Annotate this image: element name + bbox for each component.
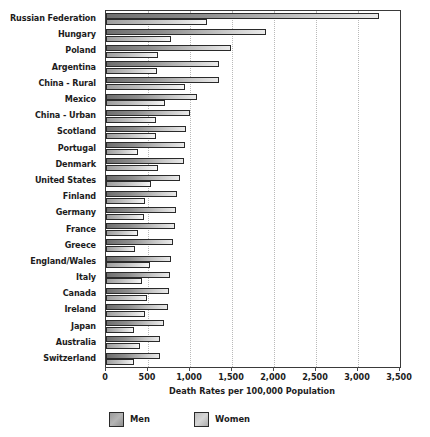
- x-tick-label: 2,000: [260, 372, 286, 382]
- x-tick-label: 3,500: [386, 372, 412, 382]
- bar-women: [106, 52, 158, 58]
- bar-row: [106, 92, 400, 108]
- legend-label-men: Men: [130, 414, 150, 424]
- x-tick: [273, 367, 274, 371]
- bar-row: [106, 335, 400, 351]
- bar-row: [106, 270, 400, 286]
- bar-row: [106, 302, 400, 318]
- category-label: Italy: [0, 269, 100, 285]
- bar-women: [106, 230, 138, 236]
- bar-women: [106, 246, 135, 252]
- legend-item-women[interactable]: Women: [194, 412, 250, 427]
- bar-men: [106, 272, 170, 278]
- bar-row: [106, 319, 400, 335]
- category-label: Mexico: [0, 91, 100, 107]
- category-label: Ireland: [0, 301, 100, 317]
- bar-women: [106, 133, 156, 139]
- chart-legend: MenWomen: [105, 408, 399, 430]
- x-axis-title: Death Rates per 100,000 Population: [105, 386, 399, 396]
- x-tick: [231, 367, 232, 371]
- category-label: Canada: [0, 285, 100, 301]
- bar-women: [106, 359, 134, 365]
- legend-swatch-men: [109, 412, 124, 427]
- bar-men: [106, 29, 266, 35]
- plot-area: [105, 10, 401, 368]
- bar-women: [106, 327, 134, 333]
- bar-rows: [106, 11, 400, 367]
- bar-men: [106, 110, 190, 116]
- bar-row: [106, 254, 400, 270]
- x-tick: [189, 367, 190, 371]
- bar-men: [106, 256, 171, 262]
- legend-label-women: Women: [215, 414, 250, 424]
- x-tick: [105, 367, 106, 371]
- bar-row: [106, 221, 400, 237]
- bar-men: [106, 13, 379, 19]
- x-tick-label: 1,000: [176, 372, 202, 382]
- bar-men: [106, 45, 231, 51]
- bar-men: [106, 77, 219, 83]
- legend-item-men[interactable]: Men: [109, 412, 150, 427]
- bar-men: [106, 158, 184, 164]
- category-label: China - Urban: [0, 107, 100, 123]
- bar-women: [106, 278, 142, 284]
- bar-row: [106, 124, 400, 140]
- bar-women: [106, 343, 140, 349]
- bar-women: [106, 262, 150, 268]
- bar-row: [106, 141, 400, 157]
- bar-row: [106, 157, 400, 173]
- bar-men: [106, 288, 169, 294]
- category-label: Hungary: [0, 26, 100, 42]
- category-label: Scotland: [0, 123, 100, 139]
- bar-row: [106, 76, 400, 92]
- x-tick-label: 2,500: [302, 372, 328, 382]
- category-label: United States: [0, 172, 100, 188]
- x-axis-tick-labels: 05001,0001,5002,0002,5003,0003,500: [0, 372, 430, 384]
- x-tick-label: 500: [139, 372, 156, 382]
- bar-row: [106, 43, 400, 59]
- category-label: Germany: [0, 204, 100, 220]
- bar-men: [106, 94, 197, 100]
- bar-row: [106, 27, 400, 43]
- bar-men: [106, 239, 173, 245]
- bar-men: [106, 61, 219, 67]
- category-label: France: [0, 220, 100, 236]
- bar-row: [106, 11, 400, 27]
- x-tick-label: 1,500: [218, 372, 244, 382]
- bar-row: [106, 189, 400, 205]
- bar-row: [106, 286, 400, 302]
- category-axis-labels: Russian FederationHungaryPolandArgentina…: [0, 10, 100, 366]
- legend-swatch-women: [194, 412, 209, 427]
- bar-chart: Russian FederationHungaryPolandArgentina…: [0, 0, 430, 437]
- x-tick: [315, 367, 316, 371]
- bar-women: [106, 19, 207, 25]
- bar-row: [106, 205, 400, 221]
- bar-women: [106, 311, 145, 317]
- bar-men: [106, 191, 177, 197]
- bar-men: [106, 223, 175, 229]
- bar-women: [106, 181, 151, 187]
- bar-women: [106, 84, 185, 90]
- bar-row: [106, 351, 400, 367]
- bar-men: [106, 207, 176, 213]
- category-label: Portugal: [0, 140, 100, 156]
- category-label: Finland: [0, 188, 100, 204]
- category-label: Australia: [0, 334, 100, 350]
- category-label: Russian Federation: [0, 10, 100, 26]
- gridline: [400, 11, 401, 367]
- bar-women: [106, 117, 156, 123]
- bar-women: [106, 165, 158, 171]
- bar-men: [106, 336, 160, 342]
- bar-women: [106, 68, 157, 74]
- bar-women: [106, 198, 145, 204]
- bar-row: [106, 60, 400, 76]
- category-label: Switzerland: [0, 350, 100, 366]
- bar-women: [106, 295, 147, 301]
- bar-row: [106, 238, 400, 254]
- category-label: China - Rural: [0, 75, 100, 91]
- bar-men: [106, 353, 160, 359]
- category-label: Denmark: [0, 156, 100, 172]
- x-tick: [147, 367, 148, 371]
- x-tick: [357, 367, 358, 371]
- bar-men: [106, 175, 180, 181]
